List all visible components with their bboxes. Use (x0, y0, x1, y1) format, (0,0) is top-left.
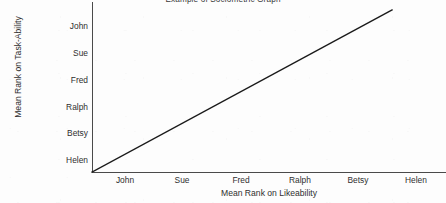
y-axis-tick-labels: John Sue Fred Ralph Betsy Helen (42, 0, 88, 203)
y-tick-label: Fred (44, 75, 88, 85)
x-tick-label: Helen (386, 175, 446, 185)
trend-line (92, 10, 392, 172)
x-axis-title: Mean Rank on Likeability (92, 188, 446, 198)
x-axis-tick-labels: John Sue Fred Ralph Betsy Helen (0, 175, 446, 189)
y-tick-label: Sue (44, 48, 88, 58)
x-tick-label: Betsy (328, 175, 388, 185)
sociometric-graph-figure: Example of Sociometric Graph John Sue Fr… (0, 0, 446, 203)
x-tick-label: Sue (152, 175, 212, 185)
x-tick-label: Ralph (270, 175, 330, 185)
y-tick-label: Ralph (44, 102, 88, 112)
y-tick-label: John (44, 21, 88, 31)
y-tick-label: Betsy (44, 128, 88, 138)
x-tick-label: John (95, 175, 155, 185)
y-axis-title: Mean Rank on Task-Ability (13, 0, 23, 147)
y-tick-label: Helen (44, 155, 88, 165)
x-tick-label: Fred (211, 175, 271, 185)
